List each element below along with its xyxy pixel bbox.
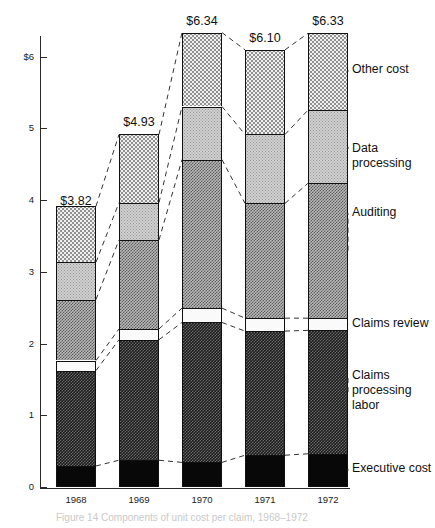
legend-label-1: Data processing <box>352 141 435 171</box>
segment-labor-1970[interactable] <box>182 322 222 462</box>
y-tick-0 <box>40 487 47 488</box>
y-tick-label: 3 <box>8 267 34 277</box>
segment-exec-1969[interactable] <box>119 460 159 487</box>
segment-other-1969[interactable] <box>119 134 159 202</box>
segment-labor-1969[interactable] <box>119 340 159 461</box>
stacked-bar-chart: $6543210 $3.821968$4.931969$6.341970$6.1… <box>0 0 435 528</box>
segment-audit-1969[interactable] <box>119 240 159 329</box>
segment-audit-1971[interactable] <box>245 203 285 318</box>
y-tick-label: 4 <box>8 195 34 205</box>
segment-exec-1971[interactable] <box>245 455 285 487</box>
segment-audit-1970[interactable] <box>182 160 222 309</box>
y-tick-5 <box>40 128 47 129</box>
y-tick-6 <box>40 57 47 58</box>
segment-data-1970[interactable] <box>182 107 222 160</box>
segment-data-1972[interactable] <box>308 110 348 183</box>
bar-1969[interactable] <box>119 0 159 528</box>
segment-claims-1968[interactable] <box>56 361 96 371</box>
y-tick-3 <box>40 272 47 273</box>
legend-label-4: Claims processing labor <box>352 368 435 413</box>
bar-1970[interactable] <box>182 0 222 528</box>
y-tick-label: 5 <box>8 123 34 133</box>
segment-data-1971[interactable] <box>245 134 285 203</box>
segment-other-1971[interactable] <box>245 50 285 135</box>
segment-audit-1968[interactable] <box>56 300 96 361</box>
segment-labor-1971[interactable] <box>245 331 285 455</box>
segment-claims-1971[interactable] <box>245 318 285 331</box>
segment-other-1972[interactable] <box>308 33 348 110</box>
segment-claims-1969[interactable] <box>119 329 159 340</box>
y-tick-label: 2 <box>8 339 34 349</box>
segment-other-1968[interactable] <box>56 206 96 262</box>
segment-other-1970[interactable] <box>182 33 222 107</box>
segment-audit-1972[interactable] <box>308 183 348 318</box>
legend-label-2: Auditing <box>352 205 396 220</box>
legend-label-5: Executive cost <box>352 461 431 476</box>
y-tick-label: 0 <box>8 482 34 492</box>
segment-labor-1972[interactable] <box>308 330 348 453</box>
segment-exec-1968[interactable] <box>56 466 96 488</box>
segment-exec-1972[interactable] <box>308 454 348 488</box>
legend-label-0: Other cost <box>352 62 409 77</box>
bar-1971[interactable] <box>245 0 285 528</box>
y-tick-label: 1 <box>8 410 34 420</box>
bar-1968[interactable] <box>56 0 96 528</box>
segment-claims-1972[interactable] <box>308 318 348 330</box>
segment-data-1969[interactable] <box>119 203 159 240</box>
figure-caption: Figure 14 Components of unit cost per cl… <box>56 512 308 523</box>
y-tick-label: $6 <box>8 52 34 62</box>
segment-claims-1970[interactable] <box>182 308 222 322</box>
y-tick-2 <box>40 344 47 345</box>
y-tick-1 <box>40 415 47 416</box>
segment-data-1968[interactable] <box>56 262 96 299</box>
legend-label-3: Claims review <box>352 316 429 331</box>
y-axis-line <box>40 36 41 489</box>
segment-labor-1968[interactable] <box>56 371 96 466</box>
segment-exec-1970[interactable] <box>182 462 222 487</box>
bar-1972[interactable] <box>308 0 348 528</box>
